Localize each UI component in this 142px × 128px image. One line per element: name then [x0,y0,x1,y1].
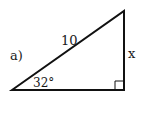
angle-label: 32° [33,76,54,90]
problem-label: a) [10,48,23,63]
right-triangle [12,11,124,90]
hypotenuse-label: 10 [61,33,78,48]
triangle-diagram: a) 10 x 32° [0,0,142,128]
opposite-side-label: x [128,46,136,61]
right-angle-marker [115,81,124,90]
